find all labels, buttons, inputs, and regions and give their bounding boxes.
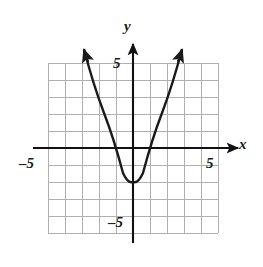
y-axis-tick-label-negative-5: –5 (108, 214, 123, 231)
graph-figure: 5 –5 –5 5 y x (0, 0, 263, 267)
x-axis-label: x (239, 136, 247, 153)
y-axis-label: y (124, 18, 131, 35)
x-axis-tick-label-5: 5 (206, 155, 214, 172)
y-axis-tick-label-5: 5 (113, 55, 121, 72)
coordinate-plane-svg (0, 0, 263, 267)
x-axis-tick-label-negative-5: –5 (19, 155, 34, 172)
